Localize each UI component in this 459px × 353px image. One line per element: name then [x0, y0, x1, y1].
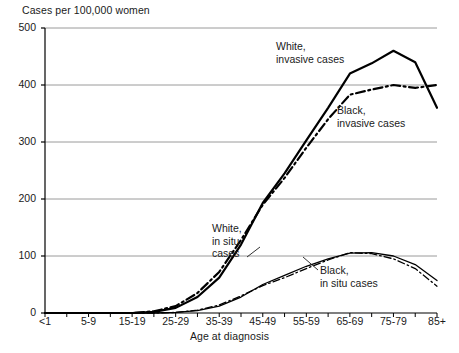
x-tick-label: 25-29 — [162, 315, 189, 327]
x-axis-title: Age at diagnosis — [0, 330, 459, 342]
series-label-white-insitu: White, in situ cases — [212, 222, 242, 260]
y-tick-label: 400 — [2, 78, 36, 90]
series-label-white-invasive: White, invasive cases — [276, 40, 344, 65]
series-line-white-invasive-cases — [45, 51, 437, 313]
data-series-group — [45, 51, 437, 313]
series-label-line-2: invasive cases — [276, 53, 344, 66]
plot-area — [0, 0, 459, 353]
series-line-white-in-situ-cases — [45, 253, 437, 313]
series-label-line-1: White, — [212, 222, 242, 235]
x-tick-label: 75-79 — [380, 315, 407, 327]
x-tick-label: 35-39 — [206, 315, 233, 327]
y-axis-title: Cases per 100,000 women — [22, 4, 150, 16]
y-tick-label: 0 — [2, 306, 36, 318]
series-label-line-2: in situ — [212, 235, 242, 248]
axis-lines-group — [45, 28, 437, 313]
series-label-line-2: invasive cases — [337, 117, 405, 130]
x-tick-label: 55-59 — [293, 315, 320, 327]
series-line-black-in-situ-cases — [45, 253, 437, 313]
y-tick-label: 200 — [2, 192, 36, 204]
x-tick-label: <1 — [39, 315, 51, 327]
y-tick-label: 100 — [2, 249, 36, 261]
series-label-line-2: in situ cases — [320, 277, 378, 290]
series-label-line-1: Black, — [320, 264, 378, 277]
series-label-line-3: cases — [212, 247, 242, 260]
x-tick-label: 15-19 — [119, 315, 146, 327]
y-tick-label: 300 — [2, 135, 36, 147]
x-tick-label: 65-69 — [336, 315, 363, 327]
y-tick-label: 500 — [2, 21, 36, 33]
x-tick-label: 85+ — [428, 315, 446, 327]
series-label-black-insitu: Black, in situ cases — [320, 264, 378, 289]
series-label-black-invasive: Black, invasive cases — [337, 104, 405, 129]
chart-container: Cases per 100,000 women 0100200300400500… — [0, 0, 459, 353]
x-tick-label: 45-49 — [249, 315, 276, 327]
series-label-line-1: Black, — [337, 104, 405, 117]
x-tick-label: 5-9 — [81, 315, 96, 327]
series-label-line-1: White, — [276, 40, 344, 53]
